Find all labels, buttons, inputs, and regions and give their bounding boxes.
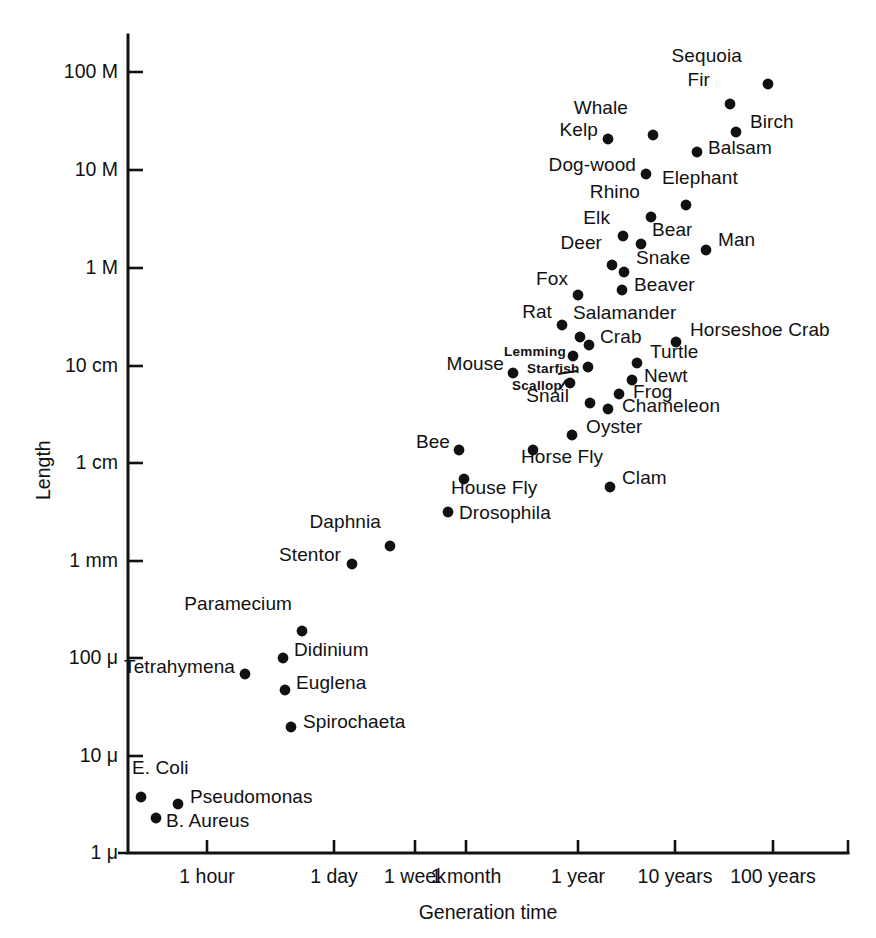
data-point bbox=[681, 200, 692, 211]
point-label: Kelp bbox=[560, 120, 598, 139]
point-label: Birch bbox=[750, 112, 794, 131]
scatter-chart: SequoiaFirWhaleBirchKelpBalsamDog-woodEl… bbox=[0, 0, 876, 938]
x-tick-label: 10 years bbox=[638, 867, 713, 886]
data-point bbox=[731, 127, 742, 138]
data-point bbox=[557, 320, 568, 331]
point-label: Salamander bbox=[573, 303, 676, 322]
x-axis-title: Generation time bbox=[419, 901, 558, 924]
data-point bbox=[443, 507, 454, 518]
data-point bbox=[278, 653, 289, 664]
point-label: Didinium bbox=[294, 640, 369, 659]
point-label: Daphnia bbox=[310, 512, 381, 531]
y-tick-label: 1 cm bbox=[76, 453, 118, 472]
point-label: Turtle bbox=[650, 342, 698, 361]
data-point bbox=[385, 541, 396, 552]
x-tick-label: 1 year bbox=[551, 867, 605, 886]
point-label: Stentor bbox=[279, 545, 341, 564]
data-point bbox=[763, 79, 774, 90]
point-label: Rat bbox=[522, 302, 552, 321]
data-point bbox=[173, 799, 184, 810]
data-point bbox=[603, 404, 614, 415]
point-label: Horseshoe Crab bbox=[690, 320, 830, 339]
data-point bbox=[151, 813, 162, 824]
point-label: Snail bbox=[526, 386, 569, 405]
point-label: Drosophila bbox=[459, 503, 551, 522]
data-point bbox=[584, 340, 595, 351]
y-tick-label: 1 mm bbox=[69, 551, 118, 570]
data-point bbox=[619, 267, 630, 278]
point-label: House Fly bbox=[451, 478, 537, 497]
data-point bbox=[286, 722, 297, 733]
x-tick-label: 100 years bbox=[730, 867, 816, 886]
point-label: Deer bbox=[560, 233, 602, 252]
point-label: Tetrahymena bbox=[124, 657, 235, 676]
point-label: Elephant bbox=[662, 168, 738, 187]
data-point bbox=[280, 685, 291, 696]
point-label: Bear bbox=[652, 220, 693, 239]
point-label: Balsam bbox=[708, 138, 772, 157]
data-point bbox=[618, 231, 629, 242]
y-tick-label: 10 μ bbox=[80, 746, 118, 765]
data-point bbox=[567, 430, 578, 441]
data-point bbox=[641, 169, 652, 180]
point-label: Clam bbox=[622, 468, 667, 487]
data-point bbox=[632, 358, 643, 369]
point-label: Chameleon bbox=[622, 396, 720, 415]
data-point bbox=[607, 260, 618, 271]
data-point bbox=[585, 398, 596, 409]
data-point bbox=[575, 332, 586, 343]
point-label: Pseudomonas bbox=[190, 787, 313, 806]
data-point bbox=[454, 445, 465, 456]
point-label: Whale bbox=[574, 98, 628, 117]
data-point bbox=[583, 362, 594, 373]
y-tick-label: 100 μ bbox=[69, 648, 118, 667]
point-label: Man bbox=[718, 230, 755, 249]
y-tick-label: 1 M bbox=[85, 258, 118, 277]
data-point bbox=[347, 559, 358, 570]
point-label: Snake bbox=[636, 248, 690, 267]
data-point bbox=[240, 669, 251, 680]
point-label: Horse Fly bbox=[521, 447, 603, 466]
data-point bbox=[136, 792, 147, 803]
point-label: Dog-wood bbox=[549, 155, 636, 174]
point-label: Rhino bbox=[590, 182, 640, 201]
point-label: Spirochaeta bbox=[303, 712, 406, 731]
data-point bbox=[692, 147, 703, 158]
data-points bbox=[136, 79, 774, 824]
point-label: Fox bbox=[536, 269, 568, 288]
data-point bbox=[605, 482, 616, 493]
x-tick-label: 1 hour bbox=[179, 867, 234, 886]
point-label: Bee bbox=[416, 432, 450, 451]
point-label: Paramecium bbox=[184, 594, 292, 613]
y-tick-label: 10 cm bbox=[65, 356, 118, 375]
point-label: Crab bbox=[600, 327, 642, 346]
y-axis-title: Length bbox=[32, 440, 55, 500]
point-label: B. Aureus bbox=[166, 811, 249, 830]
y-tick-label: 10 M bbox=[75, 160, 118, 179]
point-label: Oyster bbox=[586, 417, 643, 436]
point-label: Sequoia bbox=[672, 46, 742, 65]
data-point bbox=[725, 99, 736, 110]
point-label: Mouse bbox=[446, 354, 504, 373]
point-label: E. Coli bbox=[132, 758, 189, 777]
data-point bbox=[603, 134, 614, 145]
point-label: Beaver bbox=[634, 275, 695, 294]
x-tick-label: 1 month bbox=[431, 867, 501, 886]
x-tick-label: 1 day bbox=[310, 867, 358, 886]
data-point bbox=[648, 130, 659, 141]
y-tick-label: 1 μ bbox=[91, 843, 119, 862]
data-point bbox=[701, 245, 712, 256]
data-point bbox=[573, 290, 584, 301]
point-label: Euglena bbox=[296, 673, 366, 692]
point-label: Fir bbox=[688, 70, 710, 89]
data-point bbox=[297, 626, 308, 637]
tick-marks bbox=[128, 72, 773, 853]
point-label: Elk bbox=[583, 208, 610, 227]
data-point bbox=[617, 285, 628, 296]
y-tick-label: 100 M bbox=[64, 62, 118, 81]
